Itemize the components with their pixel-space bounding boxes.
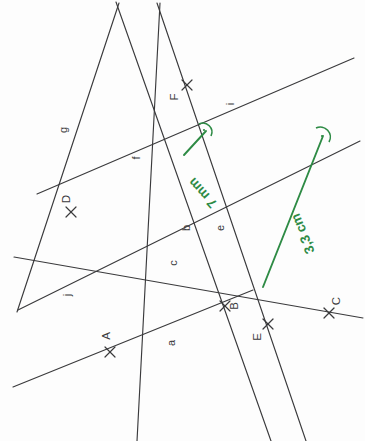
measurement-segment-7mm	[184, 131, 206, 155]
measurement-labels-group: 7 mm 3,3 cm	[185, 175, 317, 256]
point-marker-A	[105, 347, 115, 357]
line-i	[37, 58, 354, 194]
line-labels-group: a b c e f g i j	[57, 103, 236, 346]
point-label-E: E	[251, 333, 263, 341]
lines-group	[13, 2, 363, 441]
right-angle-dot-33cm	[321, 135, 323, 137]
line-a	[13, 290, 253, 387]
point-label-B: B	[228, 302, 240, 310]
line-f	[137, 3, 160, 441]
point-marker-E	[263, 319, 273, 329]
line-label-f: f	[130, 156, 142, 160]
line-e	[157, 3, 306, 441]
right-angle-dot-7mm	[203, 129, 205, 131]
right-angle-marker-7mm	[199, 123, 212, 136]
line-label-g: g	[57, 127, 69, 133]
point-marker-F	[182, 80, 192, 90]
point-label-A: A	[100, 332, 112, 340]
measurement-label-7mm: 7 mm	[185, 175, 220, 211]
diagram-canvas: A B C D E F a b c e f g i j 7 mm 3,3 cm	[0, 0, 365, 441]
point-label-C: C	[330, 297, 342, 305]
line-label-i: i	[224, 103, 236, 105]
geometry-figure: A B C D E F a b c e f g i j 7 mm 3,3 cm	[0, 0, 365, 441]
point-marker-D	[66, 207, 76, 217]
line-c	[14, 257, 363, 318]
line-label-b: b	[180, 225, 192, 231]
point-label-F: F	[168, 93, 180, 100]
line-label-j: j	[61, 294, 73, 297]
line-label-c: c	[167, 260, 179, 266]
line-g	[17, 3, 119, 312]
measurement-segment-33cm	[263, 136, 323, 287]
line-label-e: e	[214, 225, 226, 231]
right-angle-marker-33cm	[316, 127, 330, 142]
point-label-D: D	[60, 195, 72, 203]
measurement-label-33cm: 3,3 cm	[288, 211, 318, 256]
line-b	[116, 2, 271, 441]
line-label-a: a	[165, 339, 177, 346]
